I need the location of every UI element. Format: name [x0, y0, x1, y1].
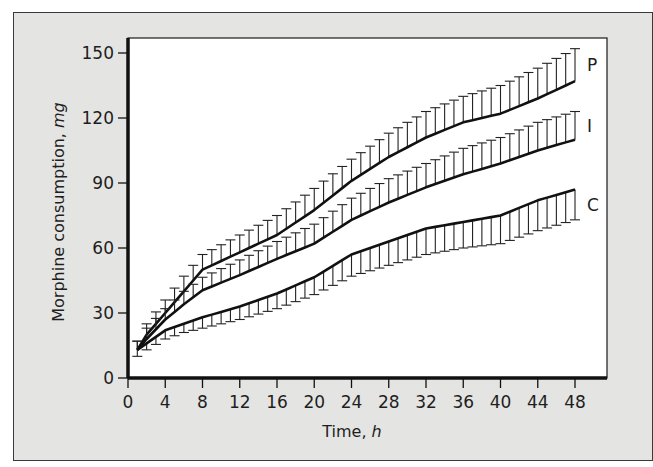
- series-label-P: P: [587, 55, 597, 75]
- x-axis-ticks: 04812162024283236404448: [123, 378, 586, 412]
- series-label-C: C: [587, 195, 599, 215]
- series-label-I: I: [587, 116, 592, 136]
- x-tick-label: 24: [341, 392, 363, 412]
- x-tick-label: 44: [527, 392, 549, 412]
- y-axis-ticks: 0306090120150: [82, 43, 128, 388]
- plot-area: [128, 38, 607, 378]
- y-tick-label: 120: [82, 108, 114, 128]
- x-tick-label: 48: [564, 392, 586, 412]
- y-tick-label: 150: [82, 43, 114, 63]
- y-tick-label: 90: [92, 173, 114, 193]
- x-tick-label: 16: [266, 392, 288, 412]
- x-tick-label: 36: [452, 392, 474, 412]
- x-tick-label: 12: [229, 392, 251, 412]
- x-axis-title: Time, h: [321, 422, 381, 441]
- x-tick-label: 20: [303, 392, 325, 412]
- x-tick-label: 32: [415, 392, 437, 412]
- y-tick-label: 30: [92, 303, 114, 323]
- x-tick-label: 0: [123, 392, 134, 412]
- x-tick-label: 4: [160, 392, 171, 412]
- x-tick-label: 40: [490, 392, 512, 412]
- y-tick-label: 60: [92, 238, 114, 258]
- x-tick-label: 8: [197, 392, 208, 412]
- x-tick-label: 28: [378, 392, 400, 412]
- y-axis-title: Morphine consumption, mg: [49, 102, 68, 322]
- y-tick-label: 0: [103, 368, 114, 388]
